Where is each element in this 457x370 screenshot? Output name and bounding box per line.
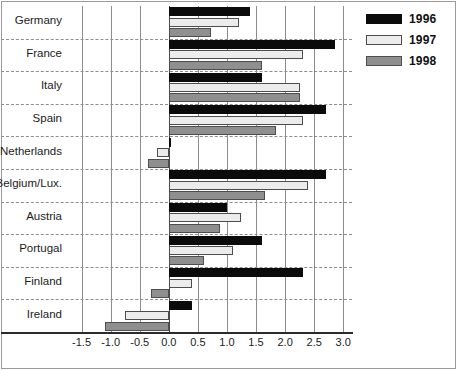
- legend-swatch-icon-1998: [366, 56, 402, 66]
- bar-netherlands-1997: [157, 148, 169, 157]
- bar-finland-1997: [169, 279, 192, 288]
- x-tick-label: 3.0: [336, 336, 351, 348]
- x-tick-label: -1.5: [72, 336, 91, 348]
- y-axis-label-portugal: Portugal: [19, 242, 62, 254]
- bar-ireland-1997: [125, 311, 169, 320]
- legend-label-1997: 1997: [409, 33, 437, 47]
- bar-france-1996: [169, 40, 335, 49]
- bar-belgium-lux-1998: [169, 191, 265, 200]
- bar-spain-1997: [169, 116, 303, 125]
- legend-item-1998: 1998: [366, 52, 450, 70]
- bar-france-1997: [169, 50, 303, 59]
- y-axis-label-italy: Italy: [41, 79, 62, 91]
- bar-portugal-1998: [169, 256, 204, 265]
- chart-row: Finland: [67, 267, 352, 300]
- y-axis-label-finland: Finland: [24, 275, 62, 287]
- chart-legend: 1996 1997 1998: [366, 10, 450, 73]
- x-tick-label: 2.0: [277, 336, 292, 348]
- bar-belgium-lux-1997: [169, 181, 309, 190]
- chart-row: Ireland: [67, 299, 352, 332]
- x-tick-label: -0.5: [130, 336, 149, 348]
- bar-france-1998: [169, 61, 262, 70]
- chart-row: Germany: [67, 6, 352, 39]
- bar-finland-1996: [169, 268, 303, 277]
- chart-row: Austria: [67, 202, 352, 235]
- legend-item-1996: 1996: [366, 10, 450, 28]
- y-axis-label-spain: Spain: [33, 112, 62, 124]
- bar-netherlands-1996: [169, 138, 171, 147]
- legend-swatch-icon-1996: [366, 14, 402, 24]
- bar-germany-1998: [169, 28, 211, 37]
- x-tick-label: 2.5: [307, 336, 322, 348]
- bar-netherlands-1998: [148, 159, 168, 168]
- bar-belgium-lux-1996: [169, 170, 326, 179]
- legend-item-1997: 1997: [366, 31, 450, 49]
- x-tick-label: 1.0: [219, 336, 234, 348]
- chart-row: Italy: [67, 71, 352, 104]
- bar-ireland-1996: [169, 301, 192, 310]
- plot-area: GermanyFranceItalySpainNetherlandsBelgiu…: [67, 6, 352, 332]
- y-axis-label-ireland: Ireland: [27, 308, 62, 320]
- x-tick-label: 0.5: [190, 336, 205, 348]
- x-tick-label: 1.5: [248, 336, 263, 348]
- chart-row: Portugal: [67, 234, 352, 267]
- y-axis-label-belgium-lux: Belgium/Lux.: [0, 177, 62, 189]
- bar-austria-1998: [169, 224, 220, 233]
- bar-germany-1997: [169, 18, 239, 27]
- bar-italy-1997: [169, 83, 300, 92]
- bar-portugal-1996: [169, 236, 262, 245]
- y-axis-label-germany: Germany: [15, 14, 62, 26]
- y-axis-label-france: France: [26, 47, 62, 59]
- bar-italy-1996: [169, 73, 262, 82]
- bar-spain-1996: [169, 105, 326, 114]
- chart-row: Netherlands: [67, 136, 352, 169]
- chart-row: Spain: [67, 104, 352, 137]
- bar-germany-1996: [169, 7, 250, 16]
- x-tick-label: -1.0: [101, 336, 120, 348]
- bar-italy-1998: [169, 93, 300, 102]
- legend-label-1996: 1996: [409, 12, 437, 26]
- bar-ireland-1998: [105, 322, 169, 331]
- legend-swatch-icon-1997: [366, 35, 402, 45]
- bar-portugal-1997: [169, 246, 233, 255]
- x-tick-label: 0.0: [161, 336, 176, 348]
- x-axis-tick-labels: -1.5-1.0-0.50.00.51.01.52.02.53.0: [67, 336, 352, 352]
- bar-austria-1997: [169, 213, 242, 222]
- legend-label-1998: 1998: [409, 54, 437, 68]
- bar-finland-1998: [151, 289, 168, 298]
- chart-row: France: [67, 39, 352, 72]
- bar-spain-1998: [169, 126, 277, 135]
- y-axis-label-netherlands: Netherlands: [0, 145, 62, 157]
- chart-row: Belgium/Lux.: [67, 169, 352, 202]
- y-axis-label-austria: Austria: [26, 210, 62, 222]
- x-axis-baseline: [1, 332, 353, 334]
- bar-austria-1996: [169, 203, 227, 212]
- chart-figure: GermanyFranceItalySpainNetherlandsBelgiu…: [0, 0, 457, 370]
